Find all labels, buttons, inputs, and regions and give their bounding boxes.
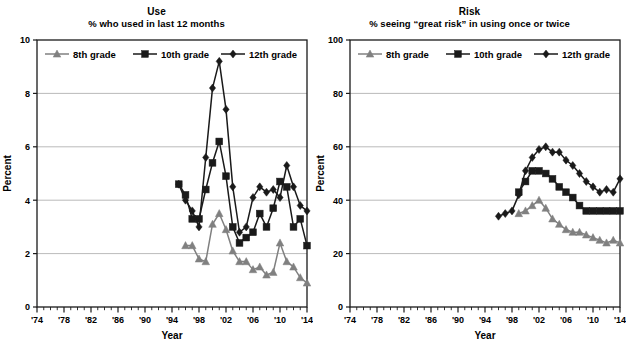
y-tick-label: 80 — [333, 89, 343, 99]
x-tick-label: '02 — [533, 315, 545, 325]
data-point-marker — [250, 229, 257, 236]
legend-marker-square-icon — [455, 51, 462, 58]
x-tick-label: '74 — [31, 315, 43, 325]
data-point-marker — [229, 224, 236, 231]
data-point-marker — [569, 194, 576, 201]
data-point-marker — [590, 207, 597, 214]
y-tick-label: 4 — [25, 196, 30, 206]
data-point-marker — [529, 167, 536, 174]
x-tick-label: '98 — [193, 315, 205, 325]
x-tick-label: '94 — [479, 315, 491, 325]
legend-label: 10th grade — [474, 49, 522, 60]
series-8th-grade — [515, 196, 624, 246]
chart-panel-risk: Risk% seeing “great risk” in using once … — [313, 0, 626, 348]
data-point-marker — [223, 105, 229, 113]
data-point-marker — [283, 183, 290, 190]
data-point-marker — [556, 183, 563, 190]
data-point-marker — [203, 153, 209, 161]
legend-item-12th-grade[interactable]: 12th grade — [221, 49, 297, 60]
data-point-marker — [290, 224, 297, 231]
x-axis: '74'78'82'86'90'94'98'02'06'10'14 — [31, 307, 313, 325]
x-tick-label: '78 — [58, 315, 70, 325]
legend-item-12th-grade[interactable]: 12th grade — [534, 49, 610, 60]
y-tick-label: 6 — [25, 142, 30, 152]
x-tick-label: '02 — [220, 315, 232, 325]
data-point-marker — [290, 183, 296, 191]
data-point-marker — [256, 210, 263, 217]
plot-area-risk: 020406080100Percent'74'78'82'86'90'94'98… — [313, 0, 626, 348]
data-point-marker — [216, 57, 222, 65]
data-point-marker — [617, 207, 624, 214]
x-tick-label: '14 — [301, 315, 313, 325]
data-point-marker — [583, 207, 590, 214]
x-tick-label: '86 — [112, 315, 124, 325]
x-tick-label: '06 — [247, 315, 259, 325]
data-point-marker — [256, 263, 264, 270]
y-tick-label: 40 — [333, 196, 343, 206]
data-point-marker — [542, 170, 549, 177]
data-point-marker — [243, 234, 250, 241]
data-point-marker — [304, 207, 310, 215]
data-point-marker — [495, 212, 501, 220]
x-tick-label: '94 — [166, 315, 178, 325]
plot-frame — [37, 40, 307, 307]
data-point-marker — [549, 175, 556, 182]
legend-item-10th-grade[interactable]: 10th grade — [133, 49, 209, 60]
data-point-marker — [596, 207, 603, 214]
data-point-marker — [536, 167, 543, 174]
data-point-marker — [610, 207, 617, 214]
data-point-marker — [215, 210, 223, 217]
data-point-marker — [597, 188, 603, 196]
data-point-marker — [243, 223, 249, 231]
y-tick-label: 2 — [25, 249, 30, 259]
y-axis-label: Percent — [2, 154, 13, 191]
y-tick-label: 60 — [333, 142, 343, 152]
data-point-marker — [535, 196, 543, 203]
figure-container: Use% who used in last 12 months0246810Pe… — [0, 0, 626, 348]
legend-item-8th-grade[interactable]: 8th grade — [358, 49, 429, 60]
legend: 8th grade10th grade12th grade — [45, 49, 297, 60]
x-tick-label: '98 — [506, 315, 518, 325]
data-point-marker — [195, 255, 203, 262]
x-tick-label: '78 — [371, 315, 383, 325]
plot-area-use: 0246810Percent'74'78'82'86'90'94'98'02'0… — [0, 0, 313, 348]
data-point-marker — [609, 236, 617, 243]
data-point-marker — [283, 258, 291, 265]
y-tick-label: 0 — [338, 302, 343, 312]
legend-marker-diamond-icon — [230, 50, 236, 58]
y-tick-label: 10 — [20, 35, 30, 45]
data-point-marker — [209, 159, 216, 166]
x-tick-label: '82 — [85, 315, 97, 325]
data-point-marker — [563, 189, 570, 196]
data-point-marker — [543, 143, 549, 151]
data-point-marker — [229, 247, 237, 254]
legend-item-10th-grade[interactable]: 10th grade — [446, 49, 522, 60]
data-point-marker — [297, 202, 303, 210]
legend-label: 12th grade — [249, 49, 297, 60]
data-point-marker — [603, 186, 609, 194]
x-tick-label: '90 — [452, 315, 464, 325]
data-point-marker — [236, 240, 243, 247]
x-axis: '74'78'82'86'90'94'98'02'06'10'14 — [344, 307, 626, 325]
data-point-marker — [297, 215, 304, 222]
legend-item-8th-grade[interactable]: 8th grade — [45, 49, 116, 60]
data-point-marker — [196, 223, 202, 231]
chart-panel-use: Use% who used in last 12 months0246810Pe… — [0, 0, 313, 348]
series-10th-grade — [175, 138, 310, 249]
data-point-marker — [576, 202, 583, 209]
data-point-marker — [304, 242, 311, 249]
data-point-marker — [502, 210, 508, 218]
x-axis-label: Year — [161, 330, 182, 341]
y-tick-label: 0 — [25, 302, 30, 312]
legend-label: 10th grade — [161, 49, 209, 60]
data-point-marker — [276, 239, 284, 246]
data-point-marker — [549, 148, 555, 156]
data-point-marker — [509, 207, 515, 215]
y-axis: 0246810 — [20, 35, 37, 312]
data-point-marker — [263, 224, 270, 231]
data-point-marker — [222, 226, 230, 233]
y-axis-label: Percent — [315, 154, 326, 191]
legend-marker-diamond-icon — [543, 50, 549, 58]
legend-label: 12th grade — [562, 49, 610, 60]
y-tick-label: 8 — [25, 89, 30, 99]
